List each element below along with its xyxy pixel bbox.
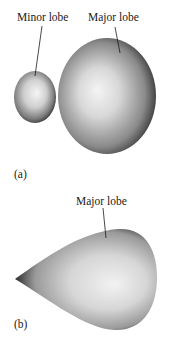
- major-lobe-b-label: Major lobe: [76, 195, 127, 208]
- panel-a-tag: (a): [14, 168, 27, 181]
- major-lobe: [58, 38, 156, 154]
- major-lobe-teardrop: [15, 229, 157, 330]
- panel-a: Minor lobe Major lobe (a): [14, 11, 156, 181]
- major-lobe-label: Major lobe: [88, 11, 139, 24]
- panel-b: Major lobe (b): [14, 195, 157, 331]
- minor-lobe-label: Minor lobe: [17, 11, 68, 23]
- panel-b-tag: (b): [14, 318, 28, 331]
- minor-lobe: [14, 71, 56, 123]
- minor-lobe-leader-line: [35, 26, 42, 76]
- radiation-pattern-diagram: Minor lobe Major lobe (a) Major lobe (b): [0, 0, 172, 342]
